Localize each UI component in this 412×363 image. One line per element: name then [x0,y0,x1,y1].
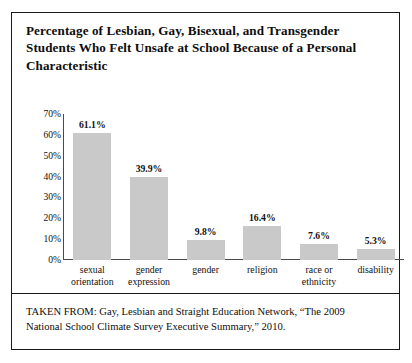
y-axis-tick-label: 40% [29,172,61,182]
source-caption: TAKEN FROM: Gay, Lesbian and Straight Ed… [26,304,382,334]
bar-slot: 9.8% [177,114,234,260]
bar [187,240,225,260]
bar-value-label: 16.4% [234,212,291,223]
x-axis-category-label-line: disability [340,264,412,276]
bar [73,133,111,260]
caption-divider [12,293,399,294]
bar-value-label: 7.6% [291,230,348,241]
chart-plot-area: 70%60%50%40%30%20%10%0% 61.1%39.9%9.8%16… [26,101,386,297]
y-axis-tick-label: 20% [29,213,61,223]
chart-title: Percentage of Lesbian, Gay, Bisexual, an… [26,22,384,74]
bar-value-label: 39.9% [121,163,178,174]
y-axis-tick-label: 30% [29,192,61,202]
bars-layer: 61.1%39.9%9.8%16.4%7.6%5.3% [64,114,404,260]
bar-value-label: 61.1% [64,119,121,130]
bar-slot: 39.9% [121,114,178,260]
bar [300,244,338,260]
y-axis-tick-label: 70% [29,109,61,119]
x-axis-category-label: disability [340,264,412,276]
bar-slot: 16.4% [234,114,291,260]
bar [243,226,281,260]
bar-slot: 5.3% [347,114,404,260]
y-axis-tick-label: 10% [29,234,61,244]
x-axis-category-label-line: expression [113,276,185,288]
bar-value-label: 5.3% [347,235,404,246]
y-axis-tick-label: 60% [29,130,61,140]
bar-slot: 61.1% [64,114,121,260]
bar-slot: 7.6% [291,114,348,260]
x-axis-category-label-line: ethnicity [283,276,355,288]
figure-frame: Percentage of Lesbian, Gay, Bisexual, an… [11,12,400,350]
bar [130,177,168,260]
bar-value-label: 9.8% [177,226,234,237]
bar [357,249,395,260]
y-axis-tick-label: 50% [29,151,61,161]
